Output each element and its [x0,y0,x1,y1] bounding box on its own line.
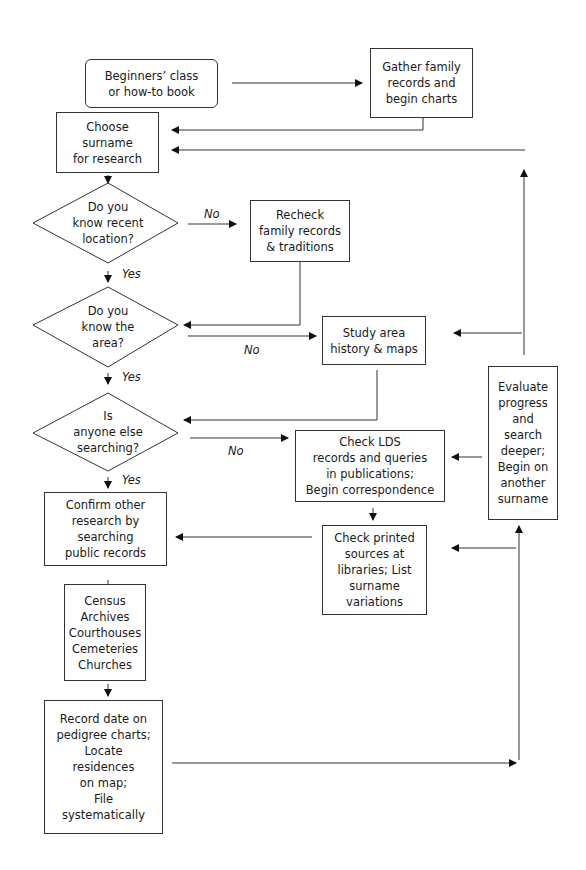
label-no-location: No [204,207,220,221]
node-record: Record date on pedigree charts; Locate r… [44,700,163,834]
node-sources-list: Census Archives Courthouses Cemeteries C… [64,584,146,681]
node-beginners: Beginners’ class or how-to book [85,59,218,108]
node-gather: Gather family records and begin charts [370,48,473,118]
node-evaluate: Evaluate progress and search deeper; Beg… [488,366,558,520]
label-yes-location: Yes [122,267,141,281]
label-yes-area: Yes [122,370,141,384]
node-check-lds: Check LDS records and queries in publica… [295,430,445,502]
label-no-anyone: No [228,444,244,458]
node-recheck: Recheck family records & traditions [250,200,350,262]
decision-anyone-text: Is anyone else searching? [60,405,156,459]
decision-location-text: Do you know recent location? [60,196,156,250]
node-confirm: Confirm other research by searching publ… [44,492,167,566]
decision-area-text: Do you know the area? [60,300,156,354]
label-no-area: No [244,343,260,357]
node-choose: Choose surname for research [56,112,159,173]
node-printed: Check printed sources at libraries; List… [322,525,427,615]
node-study: Study area history & maps [322,316,426,365]
label-yes-anyone: Yes [122,473,141,487]
